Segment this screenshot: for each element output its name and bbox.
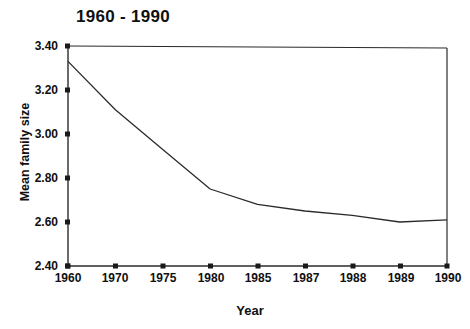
plot-area (0, 0, 470, 329)
chart-container: 1960 - 1990 Mean family size Year 3.40 3… (0, 0, 470, 329)
data-series-line (68, 61, 447, 222)
plot-frame-top (68, 46, 447, 48)
